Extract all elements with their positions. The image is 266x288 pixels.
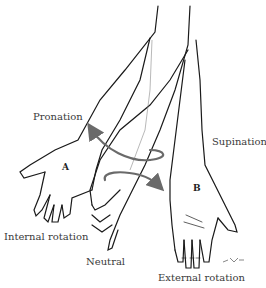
artist-signature (223, 258, 244, 262)
label-external-rotation: External rotation (158, 273, 245, 283)
hand-marker-a: A (62, 163, 69, 172)
label-supination: Supination (212, 137, 266, 147)
label-neutral: Neutral (86, 257, 125, 267)
rotation-arrow (92, 130, 163, 185)
label-internal-rotation: Internal rotation (4, 232, 88, 242)
hand-marker-b: B (193, 184, 201, 193)
arm-neutral (90, 6, 190, 250)
label-pronation: Pronation (33, 112, 83, 122)
